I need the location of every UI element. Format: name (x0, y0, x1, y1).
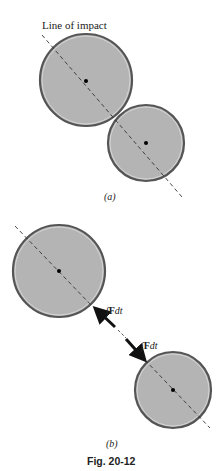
impulse-label-1: ∫Fdt (105, 305, 123, 317)
center-b1 (57, 269, 61, 273)
panel-a: Line of impact (a) (40, 19, 184, 203)
line-of-impact-label: Line of impact (42, 19, 107, 31)
impulse-label-2: ∫Fdt (140, 340, 158, 352)
panel-b: ∫Fdt ∫Fdt (b) (13, 225, 211, 450)
center-a2 (144, 141, 148, 145)
panel-a-label: (a) (104, 191, 116, 203)
panel-b-label: (b) (106, 438, 118, 450)
line-of-impact-gap (118, 330, 126, 338)
center-a1 (84, 79, 88, 83)
impact-diagram: Line of impact (a) ∫Fdt ∫Fdt (b) Fig. 20… (0, 0, 221, 471)
figure-caption: Fig. 20-12 (87, 455, 136, 467)
center-b2 (171, 388, 175, 392)
